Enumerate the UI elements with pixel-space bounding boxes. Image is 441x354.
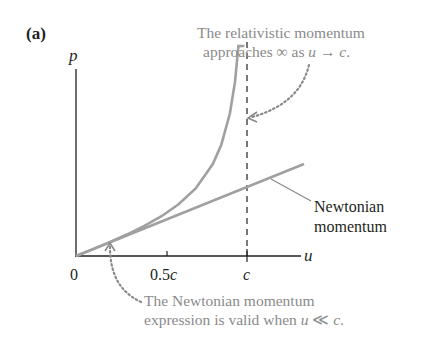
newtonian-leader-line [271, 179, 311, 201]
momentum-chart: (a) p u 0 0.5c c Newtonian momentum The … [0, 0, 441, 354]
newtonian-label-line2: momentum [314, 218, 387, 235]
relativistic-note-line1: The relativistic momentum [197, 24, 365, 41]
newtonian-label-line1: Newtonian [314, 198, 384, 215]
relativistic-momentum-curve [76, 46, 244, 256]
y-axis-label: p [68, 46, 78, 65]
newtonian-note-arrow [105, 243, 141, 302]
panel-label: (a) [26, 24, 46, 43]
tick-label-c: c [243, 266, 250, 283]
x-axis-label: u [304, 246, 313, 265]
relativistic-note-arrow [248, 65, 309, 122]
relativistic-note-line2: approaches ∞ as u → c. [203, 43, 350, 60]
axes [76, 69, 302, 262]
newtonian-note-line2: expression is valid when u ≪ c. [144, 311, 344, 328]
tick-label-0: 0 [70, 266, 78, 283]
tick-label-half-c: 0.5c [150, 266, 177, 283]
newtonian-note-line1: The Newtonian momentum [144, 292, 314, 309]
